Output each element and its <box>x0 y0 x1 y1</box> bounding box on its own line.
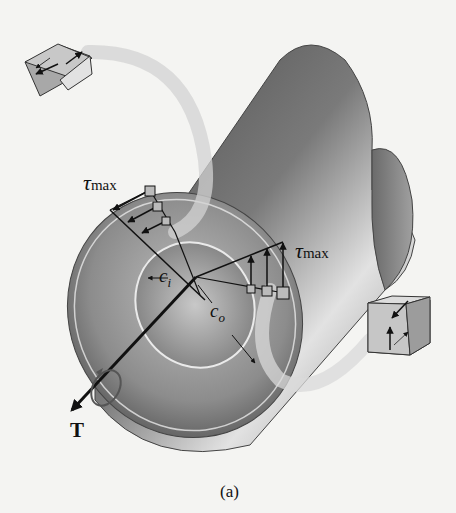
tau-subscript: max <box>91 177 117 193</box>
tau-max-label-left: τmax <box>83 170 117 196</box>
ci-subscript: i <box>167 275 171 290</box>
figure-caption: (a) <box>220 482 239 502</box>
stress-element-bottom-right <box>368 296 430 355</box>
inner-radius-label: ci <box>159 265 171 291</box>
outer-radius-label: co <box>210 300 225 326</box>
tau-subscript: max <box>303 245 329 261</box>
tube <box>23 45 415 481</box>
co-subscript: o <box>218 310 225 325</box>
torque-label: T <box>70 418 84 443</box>
torsion-diagram <box>0 0 456 513</box>
tau-symbol: τ <box>295 238 303 263</box>
tau-max-label-right: τmax <box>295 238 329 264</box>
tau-symbol: τ <box>83 170 91 195</box>
